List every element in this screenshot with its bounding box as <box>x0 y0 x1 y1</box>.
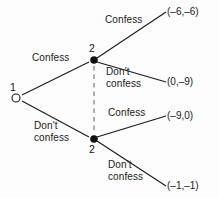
branch-label-upper-confess: Confess <box>105 14 142 25</box>
node-root-player1 <box>12 94 20 102</box>
branch-label-root-dont-confess: Don't confess <box>34 120 69 143</box>
node-label-upper: 2 <box>89 43 95 54</box>
edge-lower-confess <box>97 116 166 137</box>
branch-label-upper-dont-confess: Don't confess <box>106 66 141 89</box>
branch-label-root-confess: Confess <box>32 52 69 63</box>
node-lower-player2 <box>90 135 98 143</box>
payoff-confess-confess: (–6,–6) <box>167 6 199 17</box>
node-label-lower: 2 <box>89 144 95 155</box>
payoff-dont-confess-dont-confess: (–1,–1) <box>167 180 199 191</box>
edge-root-confess <box>22 62 89 95</box>
node-label-root: 1 <box>10 82 16 93</box>
payoff-confess-dont-confess: (0,–9) <box>167 76 193 87</box>
payoff-dont-confess-confess: (–9,0) <box>167 110 193 121</box>
game-tree-figure: 1 2 2 Confess Don't confess Confess Don'… <box>0 0 219 198</box>
branch-label-lower-confess: Confess <box>108 107 145 118</box>
node-upper-player2 <box>90 56 98 64</box>
branch-label-lower-dont-confess: Don't confess <box>108 159 143 182</box>
